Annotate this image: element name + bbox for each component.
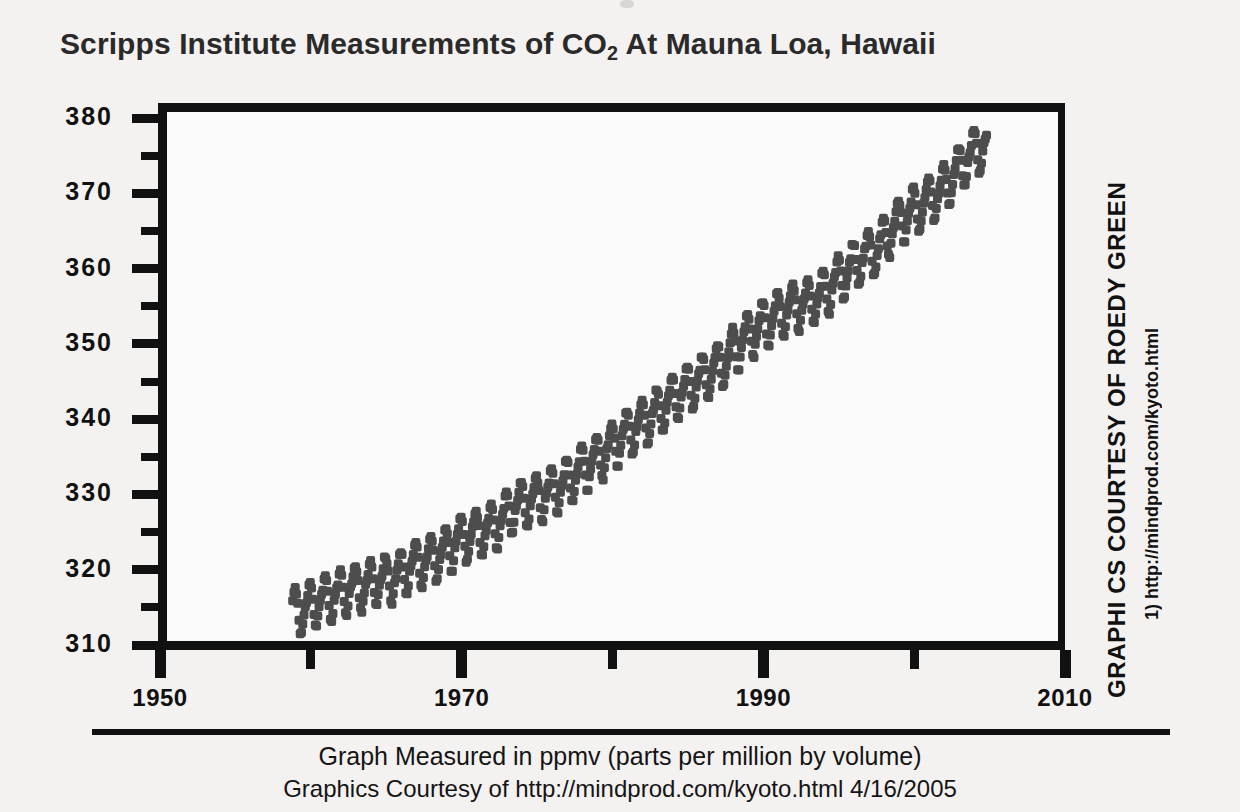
data-point bbox=[434, 565, 443, 574]
y-tick-major bbox=[132, 339, 158, 348]
data-point bbox=[825, 310, 834, 319]
data-point bbox=[753, 324, 762, 333]
data-point bbox=[352, 567, 361, 576]
data-point bbox=[586, 465, 595, 474]
data-point bbox=[448, 567, 457, 576]
plot-area bbox=[167, 112, 1074, 659]
data-point bbox=[956, 146, 965, 155]
data-point bbox=[343, 602, 352, 611]
y-axis-label: 360 bbox=[65, 253, 113, 282]
data-point bbox=[880, 217, 889, 226]
x-axis-label: 2010 bbox=[1037, 684, 1092, 712]
data-point bbox=[744, 315, 753, 324]
y-tick-major bbox=[132, 490, 158, 499]
page-title: Scripps Institute Measurements of CO2 At… bbox=[60, 27, 936, 65]
y-axis-label: 350 bbox=[65, 328, 113, 357]
data-point bbox=[568, 496, 577, 505]
data-point bbox=[675, 404, 684, 413]
plot-frame bbox=[158, 103, 1065, 650]
data-point bbox=[835, 256, 844, 265]
data-point bbox=[917, 217, 926, 226]
y-axis-label: 330 bbox=[65, 478, 113, 507]
data-point bbox=[449, 556, 458, 565]
data-point bbox=[473, 513, 482, 522]
data-point bbox=[433, 574, 442, 583]
data-point bbox=[766, 331, 775, 340]
data-point bbox=[871, 262, 880, 271]
data-point bbox=[644, 438, 653, 447]
credit-roedy-green: GRAPHI CS COURTESY OF ROEDY GREEN bbox=[1103, 58, 1133, 698]
x-axis-label: 1970 bbox=[434, 684, 489, 712]
chart-page: Scripps Institute Measurements of CO2 At… bbox=[0, 0, 1240, 812]
x-tick-major bbox=[1060, 650, 1071, 678]
data-point bbox=[714, 342, 723, 351]
data-point bbox=[374, 590, 383, 599]
data-point bbox=[910, 189, 919, 198]
data-point bbox=[570, 487, 579, 496]
data-point bbox=[478, 551, 487, 560]
co2-scatter-series bbox=[167, 112, 1074, 659]
data-point bbox=[616, 441, 625, 450]
x-axis-label: 1950 bbox=[132, 684, 187, 712]
data-point bbox=[760, 301, 769, 310]
y-axis-label: 380 bbox=[65, 102, 113, 131]
title-text-after: At Mauna Loa, Hawaii bbox=[618, 27, 936, 60]
data-point bbox=[524, 514, 533, 523]
data-point bbox=[947, 188, 956, 197]
data-point bbox=[342, 611, 351, 620]
data-point bbox=[404, 581, 413, 590]
y-tick-major bbox=[132, 415, 158, 424]
y-tick-major bbox=[132, 641, 158, 650]
data-point bbox=[463, 555, 472, 564]
y-tick-minor bbox=[141, 227, 158, 235]
data-point bbox=[307, 583, 316, 592]
data-point bbox=[654, 390, 663, 399]
x-tick-minor bbox=[306, 650, 315, 669]
data-point bbox=[811, 310, 820, 319]
data-point bbox=[721, 371, 730, 380]
data-point bbox=[563, 458, 572, 467]
data-point bbox=[978, 147, 987, 156]
data-point bbox=[389, 589, 398, 598]
data-point bbox=[646, 419, 655, 428]
data-point bbox=[930, 213, 939, 222]
horizontal-divider bbox=[92, 729, 1170, 735]
data-point bbox=[372, 600, 381, 609]
data-point bbox=[719, 380, 728, 389]
data-point bbox=[328, 609, 337, 618]
data-point bbox=[699, 355, 708, 364]
data-point bbox=[722, 362, 731, 371]
y-tick-major bbox=[132, 264, 158, 273]
data-point bbox=[900, 238, 909, 247]
x-tick-minor bbox=[608, 650, 617, 669]
x-tick-major bbox=[456, 650, 467, 678]
data-point bbox=[403, 589, 412, 598]
data-point bbox=[932, 204, 941, 213]
data-point bbox=[367, 563, 376, 572]
x-tick-minor bbox=[910, 650, 919, 669]
data-point bbox=[886, 239, 895, 248]
scan-artifact bbox=[620, 0, 634, 8]
y-tick-minor bbox=[141, 378, 158, 386]
data-point bbox=[624, 411, 633, 420]
data-point bbox=[601, 453, 610, 462]
data-point bbox=[707, 375, 716, 384]
data-point bbox=[418, 583, 427, 592]
y-tick-minor bbox=[141, 302, 158, 310]
title-subscript: 2 bbox=[607, 42, 618, 64]
data-point bbox=[298, 619, 307, 628]
data-point bbox=[708, 366, 717, 375]
y-axis-label: 340 bbox=[65, 403, 113, 432]
data-point bbox=[796, 316, 805, 325]
data-point bbox=[736, 353, 745, 362]
data-point bbox=[751, 340, 760, 349]
data-point bbox=[464, 547, 473, 556]
data-point bbox=[781, 322, 790, 331]
y-tick-minor bbox=[141, 453, 158, 461]
data-point bbox=[300, 611, 309, 620]
data-point bbox=[493, 545, 502, 554]
y-tick-minor bbox=[141, 528, 158, 536]
data-point bbox=[533, 478, 542, 487]
x-tick-major bbox=[758, 650, 769, 678]
data-point bbox=[856, 272, 865, 281]
